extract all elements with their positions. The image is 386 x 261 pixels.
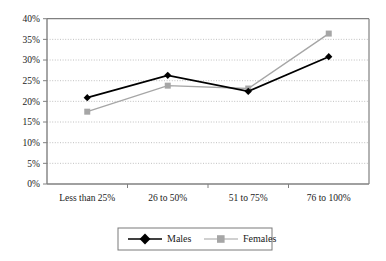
chart-svg: 0%5%10%15%20%25%30%35%40% Less than 25%2… bbox=[0, 0, 386, 261]
y-tick-label: 5% bbox=[27, 159, 40, 169]
line-chart: 0%5%10%15%20%25%30%35%40% Less than 25%2… bbox=[0, 0, 386, 261]
data-point-females bbox=[326, 31, 332, 37]
x-axis-category-labels: Less than 25%26 to 50%51 to 75%76 to 100… bbox=[59, 193, 350, 203]
legend: Males Females bbox=[118, 228, 276, 250]
y-tick-label: 35% bbox=[23, 35, 41, 45]
x-category-label: 26 to 50% bbox=[148, 193, 187, 203]
square-marker-icon bbox=[217, 235, 225, 243]
legend-label-females: Females bbox=[243, 233, 276, 244]
y-tick-label: 40% bbox=[23, 14, 41, 24]
y-axis-ticks: 0%5%10%15%20%25%30%35%40% bbox=[23, 14, 47, 189]
x-category-label: Less than 25% bbox=[59, 193, 115, 203]
y-tick-label: 15% bbox=[23, 117, 41, 127]
legend-label-males: Males bbox=[167, 233, 192, 244]
x-category-label: 76 to 100% bbox=[307, 193, 351, 203]
y-tick-label: 10% bbox=[23, 138, 41, 148]
y-tick-label: 0% bbox=[27, 179, 40, 189]
y-tick-label: 30% bbox=[23, 55, 41, 65]
y-tick-label: 20% bbox=[23, 97, 41, 107]
data-point-females bbox=[165, 83, 171, 89]
y-tick-label: 25% bbox=[23, 76, 41, 86]
x-category-label: 51 to 75% bbox=[229, 193, 268, 203]
data-point-females bbox=[84, 109, 90, 115]
